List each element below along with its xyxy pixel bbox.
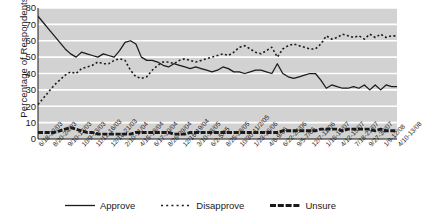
legend-item-unsure: Unsure [270,200,336,211]
legend-swatch-approve [65,201,95,210]
legend-swatch-disapprove [161,201,191,210]
x-axis-tick-labels: 6/18-22/038/20-24/039/10-13/0310/9-13/03… [0,141,401,191]
legend-label-approve: Approve [100,200,135,211]
chart-legend: Approve Disapprove Unsure [0,196,401,214]
legend-label-unsure: Unsure [305,200,336,211]
legend-item-approve: Approve [65,200,135,211]
legend-swatch-unsure [270,201,300,210]
legend-item-disapprove: Disapprove [161,200,244,211]
legend-label-disapprove: Disapprove [196,200,244,211]
